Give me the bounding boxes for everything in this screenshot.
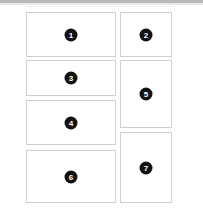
wireframe-canvas: 1234567 [0, 0, 203, 217]
panel-1[interactable]: 1 [26, 12, 116, 57]
top-hairline-rule [26, 6, 172, 7]
panel-3[interactable]: 3 [26, 60, 116, 96]
panel-7[interactable]: 7 [120, 132, 172, 203]
top-divider-bar-shade [0, 3, 203, 5]
panel-6[interactable]: 6 [26, 150, 116, 203]
panel-4[interactable]: 4 [26, 100, 116, 145]
panel-number-badge: 5 [140, 88, 153, 101]
panel-2[interactable]: 2 [120, 12, 172, 57]
panel-number-badge: 6 [65, 170, 78, 183]
panel-number-badge: 7 [140, 161, 153, 174]
panel-number-badge: 1 [65, 28, 78, 41]
panel-number-badge: 4 [65, 116, 78, 129]
panel-number-badge: 2 [140, 28, 153, 41]
panel-5[interactable]: 5 [120, 60, 172, 128]
panel-number-badge: 3 [65, 72, 78, 85]
